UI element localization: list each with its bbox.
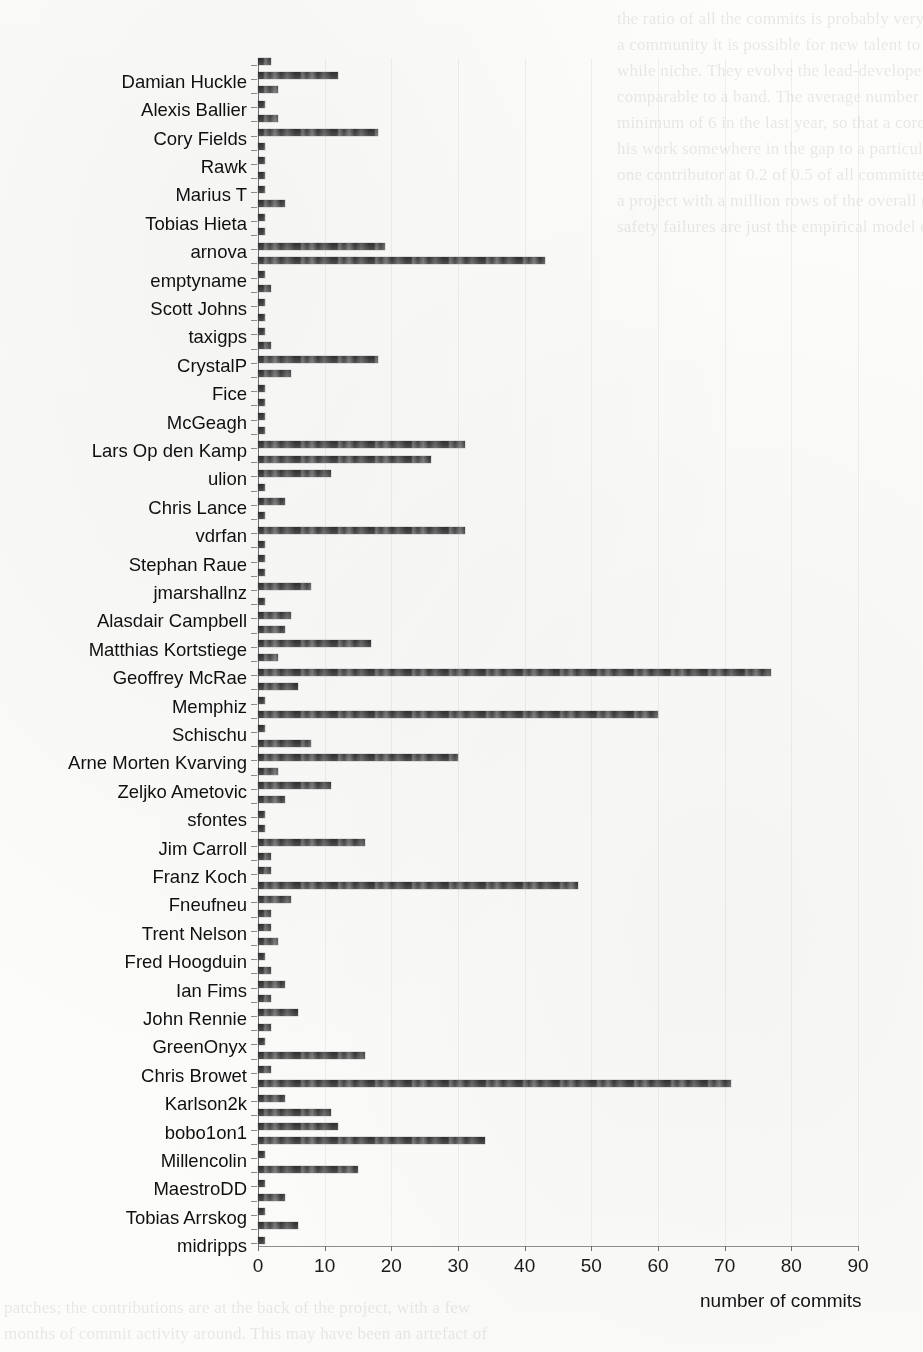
bar: [258, 86, 278, 93]
x-axis-tick: [391, 1246, 392, 1251]
bar: [258, 910, 271, 917]
bar: [258, 1151, 265, 1158]
y-axis-tick: [251, 1130, 257, 1131]
bar: [258, 1123, 338, 1130]
y-axis-tick: [251, 221, 257, 222]
bar: [258, 1038, 265, 1045]
y-axis-tick: [251, 519, 257, 520]
bar: [258, 200, 285, 207]
bar: [258, 541, 265, 548]
y-axis-tick-label: vdrfan: [196, 526, 247, 546]
x-axis-tick-label: 80: [781, 1254, 802, 1277]
bar: [258, 370, 291, 377]
y-axis-tick: [251, 249, 257, 250]
bar: [258, 72, 338, 79]
y-axis-tick: [251, 931, 257, 932]
y-axis-tick: [251, 917, 257, 918]
y-axis-tick: [251, 1115, 257, 1116]
y-axis-tick: [251, 1059, 257, 1060]
y-axis-tick: [251, 505, 257, 506]
y-axis-tick-label: Chris Browet: [141, 1066, 247, 1086]
bar: [258, 768, 278, 775]
y-axis-tick: [251, 902, 257, 903]
y-axis-tick: [251, 775, 257, 776]
y-axis-tick: [251, 462, 257, 463]
bar: [258, 683, 298, 690]
y-axis-tick-label: Marius T: [175, 185, 247, 205]
y-axis-tick: [251, 1158, 257, 1159]
y-axis-tick: [251, 590, 257, 591]
bar: [258, 413, 265, 420]
bar: [258, 796, 285, 803]
bar: [258, 839, 365, 846]
x-axis-tick: [858, 1246, 859, 1251]
bar: [258, 995, 271, 1002]
y-axis-tick: [251, 562, 257, 563]
bar: [258, 1109, 331, 1116]
y-axis-tick: [251, 533, 257, 534]
y-axis-tick-label: Arne Morten Kvarving: [68, 753, 247, 773]
x-axis-tick: [325, 1246, 326, 1251]
y-axis-tick: [251, 604, 257, 605]
y-axis-tick: [251, 732, 257, 733]
y-axis-tick: [251, 136, 257, 137]
bar: [258, 399, 265, 406]
y-axis-tick: [251, 121, 257, 122]
bar: [258, 569, 265, 576]
y-axis-tick: [251, 1201, 257, 1202]
bar: [258, 953, 265, 960]
bar: [258, 583, 311, 590]
y-axis-tick: [251, 434, 257, 435]
y-axis-tick: [251, 959, 257, 960]
y-axis-tick: [251, 1215, 257, 1216]
y-axis-tick: [251, 1186, 257, 1187]
y-axis-tick: [251, 1087, 257, 1088]
bar: [258, 1024, 271, 1031]
bar: [258, 257, 545, 264]
y-axis-tick-label: Tobias Arrskog: [126, 1208, 247, 1228]
y-axis-tick: [251, 263, 257, 264]
bar: [258, 172, 265, 179]
bar: [258, 1052, 365, 1059]
y-axis-tick-label: Zeljko Ametovic: [117, 782, 247, 802]
y-axis-tick-label: Fice: [212, 384, 247, 404]
y-axis-tick-label: Tobias Hieta: [145, 214, 247, 234]
y-axis-tick: [251, 1016, 257, 1017]
x-axis-tick: [658, 1246, 659, 1251]
y-axis-tick: [251, 1073, 257, 1074]
bar: [258, 342, 271, 349]
y-axis-tick-label: John Rennie: [143, 1009, 247, 1029]
y-axis-tick-label: MaestroDD: [153, 1179, 247, 1199]
gridline: [858, 58, 859, 1246]
bar: [258, 697, 265, 704]
y-axis-tick-label: midripps: [177, 1236, 247, 1256]
x-axis-tick: [458, 1246, 459, 1251]
bar: [258, 1009, 298, 1016]
bar: [258, 470, 331, 477]
y-axis-tick-label: Matthias Kortstiege: [89, 640, 247, 660]
bar: [258, 271, 265, 278]
y-axis-tick-label: Rawk: [201, 157, 247, 177]
bar: [258, 967, 271, 974]
bar: [258, 129, 378, 136]
bar: [258, 782, 331, 789]
y-axis-tick-label: arnova: [190, 242, 247, 262]
bar: [258, 612, 291, 619]
bar: [258, 1208, 265, 1215]
bar: [258, 484, 265, 491]
bar: [258, 299, 265, 306]
bar: [258, 157, 265, 164]
y-axis-tick: [251, 704, 257, 705]
bar: [258, 555, 265, 562]
y-axis-tick-label: Franz Koch: [152, 867, 247, 887]
x-axis-tick-label: 60: [647, 1254, 668, 1277]
y-axis-tick: [251, 945, 257, 946]
bar: [258, 58, 271, 65]
y-axis-tick-label: Memphiz: [172, 697, 247, 717]
y-axis-tick-label: McGeagh: [167, 413, 247, 433]
bar: [258, 527, 465, 534]
bar: [258, 228, 265, 235]
y-axis-tick: [251, 746, 257, 747]
y-axis-tick: [251, 405, 257, 406]
y-axis-tick-label: bobo1on1: [165, 1123, 247, 1143]
